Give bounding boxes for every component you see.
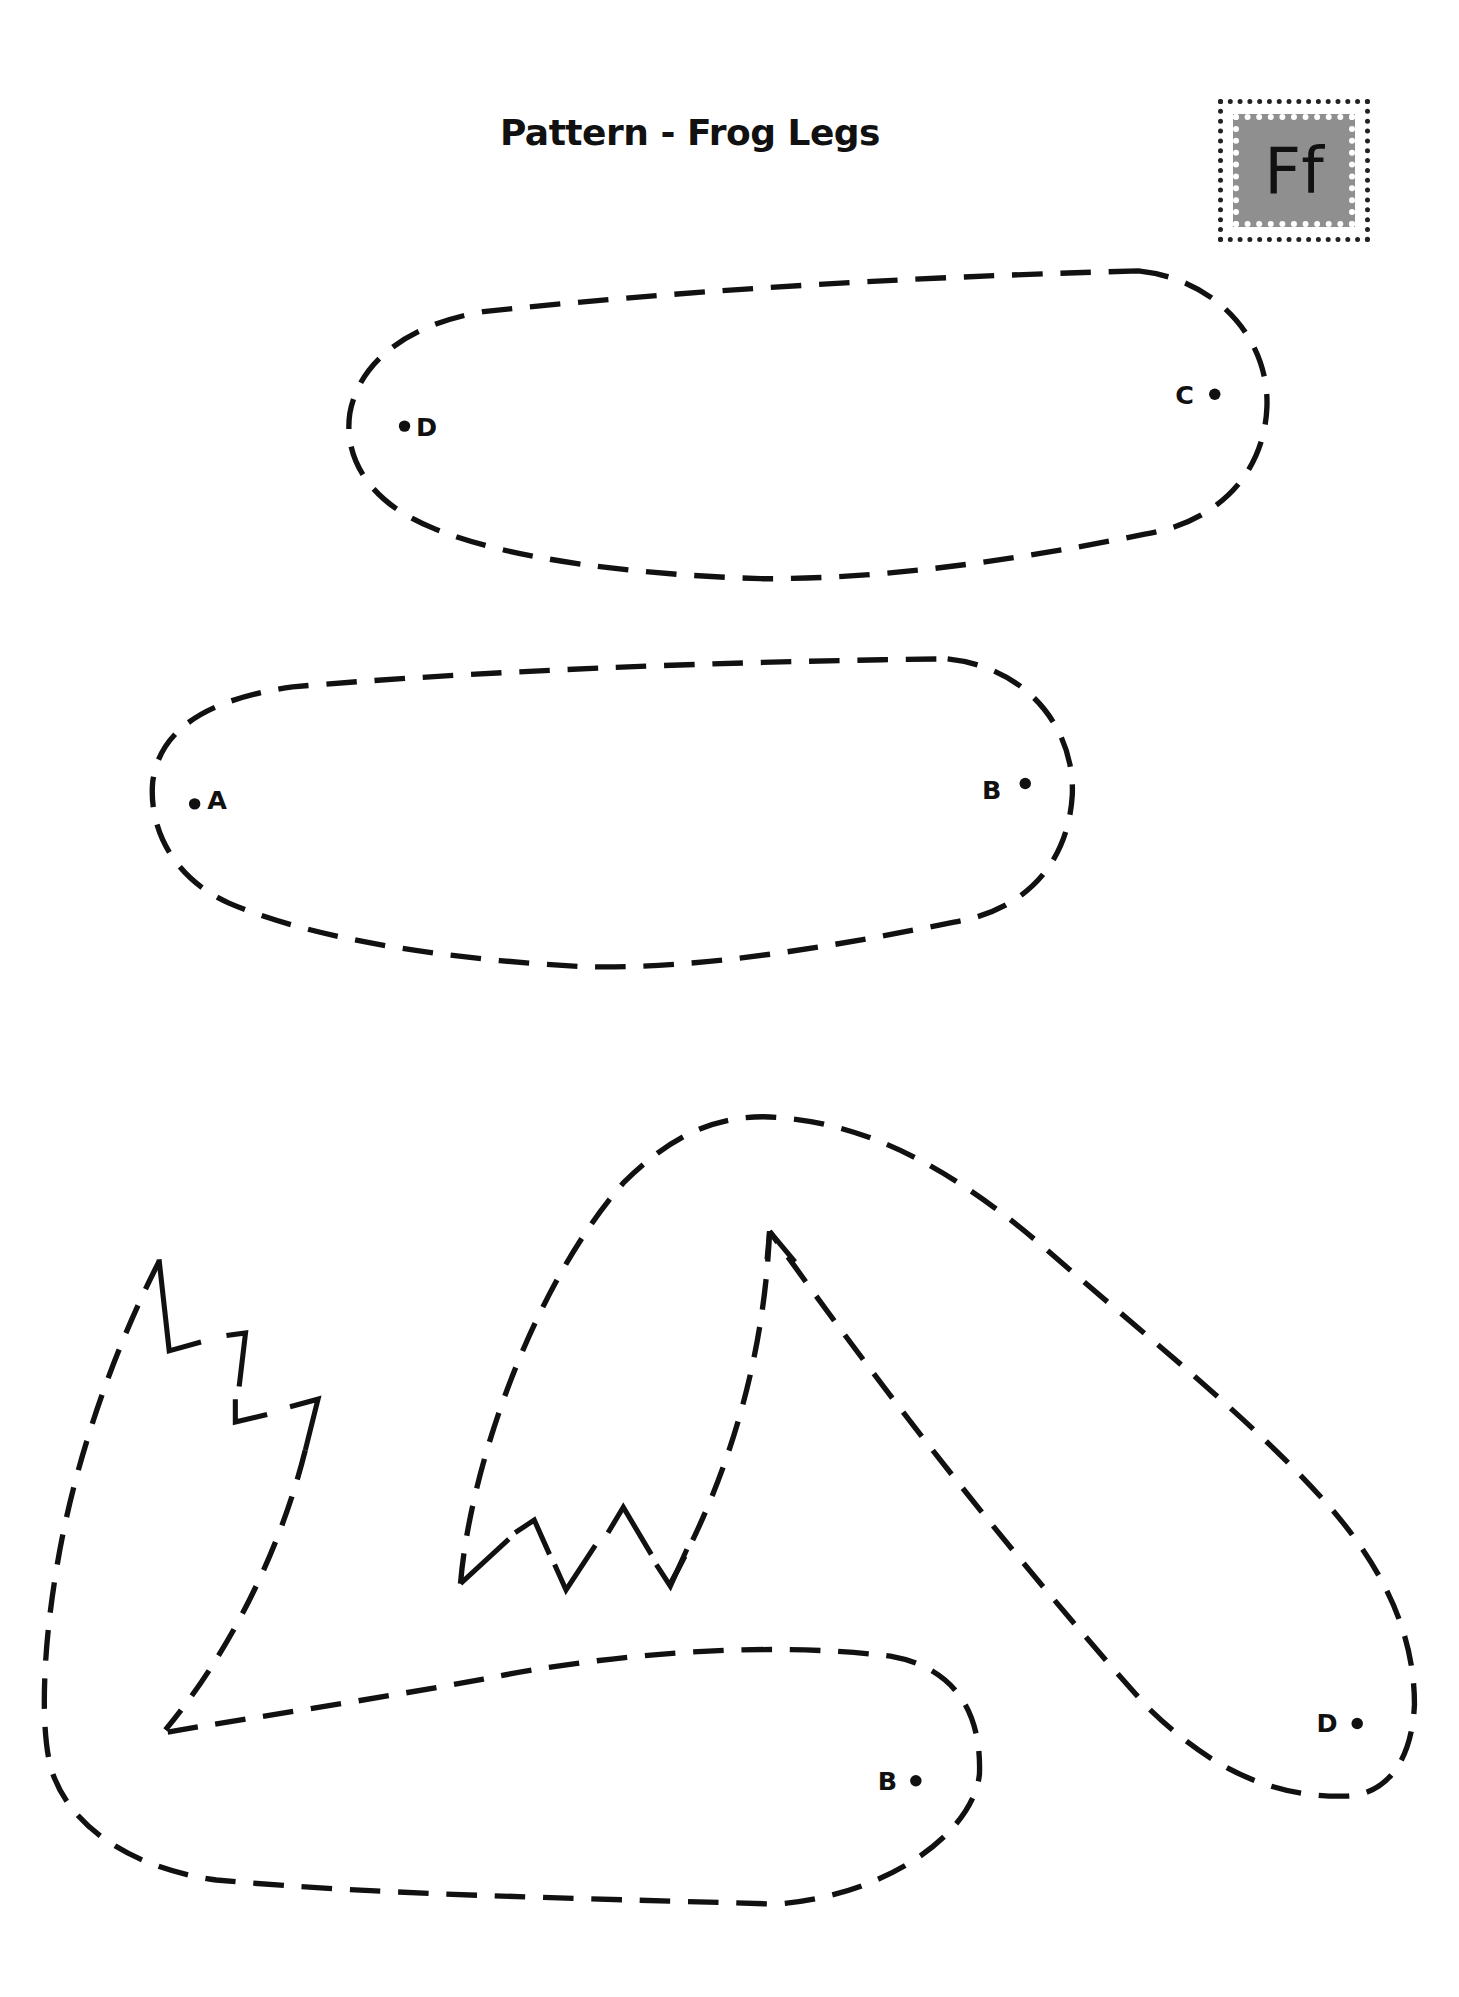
pattern-page: Pattern - Frog Legs Ff D C A B xyxy=(0,0,1459,1997)
point-label-d2: D xyxy=(1317,1708,1338,1738)
point-dot-d2 xyxy=(1351,1718,1362,1729)
point-dot-b xyxy=(1020,778,1031,789)
piece-upper-1: D C xyxy=(349,271,1267,579)
point-label-a: A xyxy=(207,785,227,815)
point-label-b2: B xyxy=(878,1766,897,1796)
point-dot-d xyxy=(399,420,410,431)
point-label-c: C xyxy=(1175,380,1194,410)
pattern-pieces: D C A B B xyxy=(0,0,1459,1997)
point-label-b: B xyxy=(982,775,1001,805)
point-dot-a xyxy=(189,798,200,809)
point-label-d: D xyxy=(416,412,437,442)
piece-lower-left: B xyxy=(44,1259,979,1904)
point-dot-b2 xyxy=(910,1775,921,1786)
point-dot-c xyxy=(1209,389,1220,400)
piece-upper-2: A B xyxy=(152,659,1072,967)
piece-lower-right: D xyxy=(460,1117,1414,1796)
